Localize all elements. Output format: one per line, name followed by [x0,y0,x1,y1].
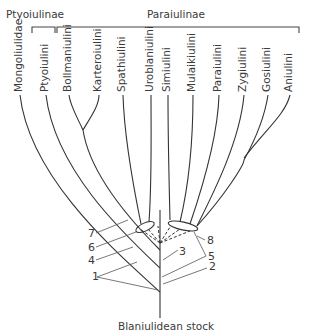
branch-mulaikiulini [180,95,193,222]
marker-6: 6 [88,241,95,254]
taxon-zygiulini: Zygiulini [236,47,248,92]
group-label-paraiulinae: Paraiulinae [147,8,205,20]
cladogram-svg: Ptyoiulinae Paraiulinae Mongoliulidae Pt… [0,0,313,335]
branch-uroblaniulini [149,95,151,222]
taxon-aniulini: Aniulini [282,53,294,92]
taxon-labels: Mongoliulidae Ptyoiulini Bollmaniulini K… [12,19,294,92]
taxon-karteroiulini: Karteroiulini [91,28,103,92]
marker-4: 4 [88,254,95,267]
group-label-ptyoiulinae: Ptyoiulinae [6,8,64,20]
branch-bollmaniulini [69,95,83,130]
branch-spathiulini [123,95,141,224]
branch-karteroiulini [83,95,99,130]
dashed-connectors [140,226,190,243]
branch-zygiulini [197,95,244,226]
branch-aniulini [244,95,290,158]
taxon-ptyoiulini: Ptyoiulini [38,44,50,92]
root-label: Blaniulidean stock [118,320,215,332]
taxon-paraiulini: Paraiulini [211,44,223,92]
branch-gosiulini [197,95,268,226]
taxon-mulaikiulini: Mulaikiulini [185,33,197,92]
bracket-ptyoiulinae [32,27,55,33]
capsule-left [134,219,156,235]
taxon-spathiulini: Spathiulini [115,36,127,92]
cladogram: Ptyoiulinae Paraiulinae Mongoliulidae Pt… [0,0,313,335]
taxon-simiulini: Simiulini [160,47,172,92]
taxon-bollmaniulini: Bollmaniulini [61,24,73,92]
marker-3: 3 [179,245,186,258]
taxon-uroblaniulini: Uroblaniulini [143,26,155,92]
marker-2: 2 [209,260,216,273]
taxon-gosiulini: Gosiulini [260,47,272,92]
capsule-right [167,219,198,233]
branch-simiulini [168,95,170,220]
tree-branches [20,95,290,318]
branch-ptyoiulini [46,95,160,268]
marker-8: 8 [207,234,214,247]
marker-7: 7 [88,227,95,240]
taxon-mongoliulidae: Mongoliulidae [12,19,24,92]
